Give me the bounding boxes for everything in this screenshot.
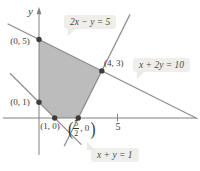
point-label-5-2-0: (52, 0) <box>68 119 96 138</box>
y-axis-label: y <box>28 5 33 17</box>
point-label-4-3: (4, 3) <box>104 59 124 69</box>
callout-tail-icon <box>68 28 76 36</box>
vertex-dot <box>36 100 41 105</box>
equation-label-x-plus-y-1: x + y = 1 <box>91 148 139 162</box>
equation-text: x + y = 1 <box>97 150 133 160</box>
vertex-dot <box>36 37 41 42</box>
point-label-0-1: (0, 1) <box>4 98 36 108</box>
fraction-suffix: , 0 <box>79 124 90 134</box>
point-label-1-0: (1, 0) <box>36 122 64 132</box>
vertex-dot <box>52 115 57 120</box>
point-label-0-5: (0, 5) <box>4 37 36 47</box>
callout-tail-icon <box>87 142 95 150</box>
feasible-region <box>39 40 102 119</box>
close-paren: ) <box>90 119 95 137</box>
callout-tail-icon <box>137 71 145 79</box>
equation-text: 2x − y = 5 <box>70 17 110 27</box>
equation-text: x + 2y = 10 <box>139 60 184 70</box>
equation-label-x-plus-2y-10: x + 2y = 10 <box>133 58 190 72</box>
y-axis-arrow-icon <box>37 7 42 15</box>
equation-label-2x-minus-y-5: 2x − y = 5 <box>64 15 116 29</box>
open-paren: ( <box>68 119 73 137</box>
x-tick-label-5: 5 <box>113 121 123 132</box>
feasible-region-figure: y 5 (0, 5) (0, 1) (1, 0) (4, 3) (52, 0) … <box>0 0 200 171</box>
vertex-dot <box>99 68 104 73</box>
